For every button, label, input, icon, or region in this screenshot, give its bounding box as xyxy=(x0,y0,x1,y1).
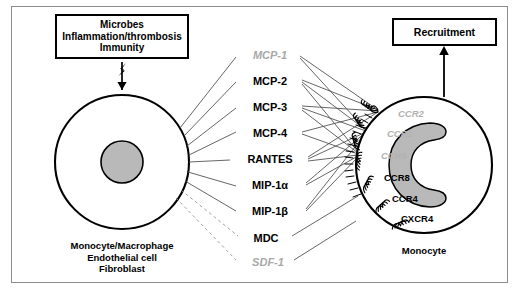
receptor-text: CCR1 xyxy=(387,128,413,139)
receptor-text: CCR5 xyxy=(381,150,407,161)
stimulus-box-label: Microbes Inflammation/thrombosis Immunit… xyxy=(62,19,181,54)
receptor-text: CCR2 xyxy=(398,108,424,119)
target-cell-caption-text: Monocyte xyxy=(402,245,446,256)
source-cell-caption-text: Monocyte/Macrophage Endothelial cell Fib… xyxy=(71,240,174,274)
chemokine-label-mcp-3: MCP-3 xyxy=(253,101,287,113)
receptor-text: CCR8 xyxy=(384,172,410,183)
receptor-label-ccr4: CCR4 xyxy=(392,193,418,204)
chemokine-label-mip-1-alpha: MIP-1α xyxy=(252,179,288,191)
chemokine-label-sdf-1: SDF-1 xyxy=(252,256,284,268)
chemokine-text: MCP-3 xyxy=(253,101,287,113)
chemokine-text: MIP-1β xyxy=(252,205,288,217)
chemokine-label-mcp-1: MCP-1 xyxy=(253,49,287,61)
stimulus-box: Microbes Inflammation/thrombosis Immunit… xyxy=(55,14,189,59)
chemokine-recruitment-figure: Microbes Inflammation/thrombosis Immunit… xyxy=(0,0,521,295)
receptor-label-ccr1: CCR1 xyxy=(387,128,413,139)
recruitment-box-label: Recruitment xyxy=(414,26,475,38)
recruitment-box: Recruitment xyxy=(392,18,497,46)
chemokine-label-mcp-4: MCP-4 xyxy=(253,127,287,139)
receptor-label-ccr5: CCR5 xyxy=(381,150,407,161)
chemokine-label-mip-1-beta: MIP-1β xyxy=(252,205,288,217)
chemokine-text: MCP-4 xyxy=(253,127,287,139)
receptor-text: CXCR4 xyxy=(401,213,433,224)
chemokine-text: MIP-1α xyxy=(252,179,288,191)
source-cell-caption: Monocyte/Macrophage Endothelial cell Fib… xyxy=(71,240,174,275)
receptor-label-ccr2: CCR2 xyxy=(398,108,424,119)
receptor-label-ccr8: CCR8 xyxy=(384,172,410,183)
receptor-label-cxcr4: CXCR4 xyxy=(401,213,433,224)
target-cell-caption: Monocyte xyxy=(402,245,446,257)
chemokine-text: MCP-1 xyxy=(253,49,287,61)
chemokine-text: RANTES xyxy=(247,153,292,165)
chemokine-text: MDC xyxy=(253,232,278,244)
chemokine-text: SDF-1 xyxy=(252,256,284,268)
receptor-text: CCR4 xyxy=(392,193,418,204)
chemokine-label-rantes: RANTES xyxy=(247,153,292,165)
chemokine-label-mdc: MDC xyxy=(253,232,278,244)
chemokine-text: MCP-2 xyxy=(253,75,287,87)
chemokine-label-mcp-2: MCP-2 xyxy=(253,75,287,87)
